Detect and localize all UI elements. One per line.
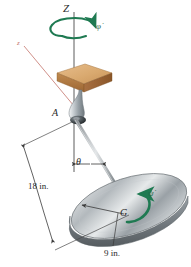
figure-graphics <box>0 0 191 267</box>
mechanics-figure: Z z A θ G φ̇ ψ̇ 18 in. 9 in. <box>0 0 191 267</box>
support-block <box>57 64 112 92</box>
label-point-G: G <box>120 208 127 218</box>
label-disk-radius: 9 in. <box>104 249 120 258</box>
label-z-body-axis: z <box>17 40 20 47</box>
label-Z-axis: Z <box>63 3 69 14</box>
label-point-A: A <box>52 108 58 118</box>
socket-housing <box>69 90 86 124</box>
label-spin-rate: ψ̇ <box>148 189 154 198</box>
label-angle-theta: θ <box>76 157 81 167</box>
label-rod-length: 18 in. <box>28 182 49 191</box>
precession-arrow-icon <box>50 18 95 38</box>
spinning-disk <box>63 161 191 251</box>
label-precession-rate: φ̇ <box>96 22 101 31</box>
